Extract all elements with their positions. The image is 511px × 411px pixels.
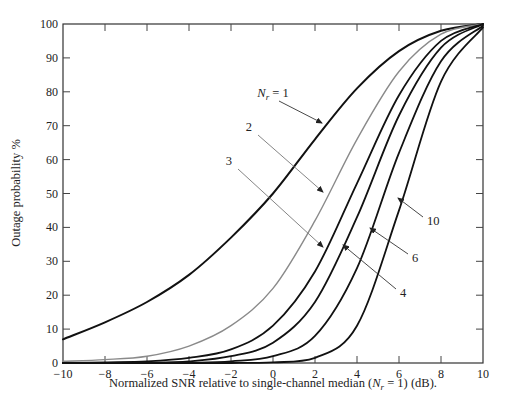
- x-axis-title: Normalized SNR relative to single-channe…: [109, 376, 437, 392]
- curve-label: 2: [246, 120, 252, 134]
- y-tick-label: 10: [46, 322, 58, 336]
- annotation-arrow: [398, 198, 423, 217]
- curve-label: 6: [412, 251, 418, 265]
- y-axis-title: Outage probability %: [9, 139, 23, 247]
- annotation-arrow: [258, 135, 323, 192]
- y-tick-label: 80: [46, 85, 58, 99]
- annotation-arrow: [370, 228, 408, 254]
- curve-n-r-1: [63, 24, 483, 339]
- curve-label: 10: [427, 214, 440, 228]
- curve-label: Nr = 1: [256, 86, 288, 102]
- annotation-arrow: [279, 101, 322, 123]
- y-tick-label: 20: [46, 288, 58, 302]
- curves: [63, 24, 483, 363]
- y-tick-label: 70: [46, 119, 58, 133]
- y-tick-label: 0: [52, 356, 58, 370]
- curve-label: 4: [400, 286, 407, 300]
- y-tick-label: 100: [40, 17, 58, 31]
- y-tick-label: 90: [46, 51, 58, 65]
- x-tick-label: 8: [438, 367, 444, 381]
- y-tick-label: 60: [46, 153, 58, 167]
- y-axis-ticks: 0102030405060708090100: [40, 17, 483, 370]
- curve-label: 3: [226, 154, 232, 168]
- y-tick-label: 50: [46, 187, 58, 201]
- y-tick-label: 30: [46, 254, 58, 268]
- y-tick-label: 40: [46, 220, 58, 234]
- outage-probability-chart: −10−8−6−4−20246810 010203040506070809010…: [0, 0, 511, 411]
- x-tick-label: 10: [477, 367, 489, 381]
